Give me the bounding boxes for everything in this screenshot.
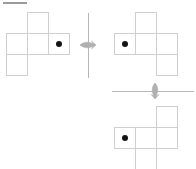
face-marker-dot [56,41,62,47]
cell-top [135,12,157,34]
cell-row-left [6,33,28,55]
cell-row-middle [135,33,157,55]
cell-bottom [156,54,178,76]
cell-row-right [156,127,178,149]
cell-top [27,12,49,34]
figure-canvas [0,0,196,169]
face-marker-dot [122,41,128,47]
cell-row-right [156,33,178,55]
rotation-arrow-horizontal [79,40,97,50]
cell-row-middle [135,127,157,149]
rotation-arrow-vertical [150,82,160,100]
cell-bottom [6,54,28,76]
cell-bottom [135,148,157,169]
face-marker-dot [122,135,128,141]
header-rule [3,2,27,4]
cell-top [156,106,178,128]
cell-row-middle [27,33,49,55]
